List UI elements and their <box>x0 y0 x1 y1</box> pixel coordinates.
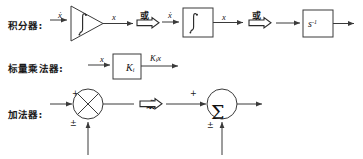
diagram-canvas: 积分器: ẋ x 或 ẋ x 或 s-1 标量乘法器: x Ki Kix 加法器… <box>0 0 363 159</box>
or-double-arrow-1 <box>137 18 159 28</box>
gain-box-shape <box>113 54 141 79</box>
laplace-box-shape <box>303 10 333 37</box>
integrator-triangle-shape <box>71 6 103 41</box>
integrator-box-shape <box>183 8 213 37</box>
sigma-summer-circle <box>207 89 237 119</box>
or-double-arrow-2 <box>249 18 271 28</box>
diagram-lines <box>0 0 363 159</box>
integral-glyph-box <box>191 14 197 32</box>
or-double-arrow-3 <box>140 99 162 109</box>
integral-glyph-triangle <box>80 14 86 34</box>
